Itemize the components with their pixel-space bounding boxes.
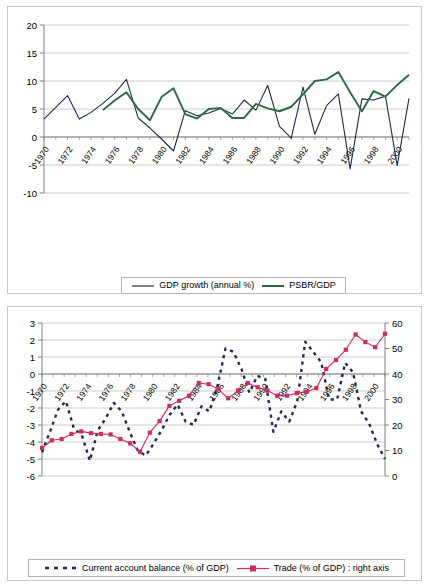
series-marker xyxy=(324,367,328,371)
x-axis-tick-label: 1980 xyxy=(141,381,160,402)
x-axis-tick-label: 1972 xyxy=(52,381,71,402)
x-axis-tick-label-group: 1984 xyxy=(185,381,204,402)
y-axis-tick-label: 0 xyxy=(30,369,35,380)
x-axis-tick-label: 1992 xyxy=(291,144,310,165)
series-marker xyxy=(383,332,387,336)
y-axis-tick-label: -4 xyxy=(27,437,35,448)
x-axis-tick-label: 1986 xyxy=(220,144,239,165)
x-axis-tick-label: 1988 xyxy=(244,144,263,165)
y2-axis-tick-label: 30 xyxy=(392,394,403,405)
legend-line-swatch-navy xyxy=(131,282,155,290)
series-marker xyxy=(177,399,181,403)
series-marker xyxy=(314,386,318,390)
series-marker xyxy=(50,438,54,442)
x-axis-tick-label: 2000 xyxy=(362,381,381,402)
series-marker xyxy=(197,381,201,385)
series-marker xyxy=(344,348,348,352)
series-marker xyxy=(334,358,338,362)
series-marker xyxy=(295,391,299,395)
y2-axis-tick-label: 20 xyxy=(392,420,403,431)
x-axis-tick-label-group: 1974 xyxy=(79,144,98,165)
y-axis-tick-label: 2 xyxy=(30,335,35,346)
y2-axis-tick-label: 0 xyxy=(392,471,397,482)
legend-label-trade: Trade (% of GDP) : right axis xyxy=(274,564,389,573)
series-marker xyxy=(187,394,191,398)
x-axis-tick-label: 2000 xyxy=(385,144,404,165)
y-axis-tick-label: 20 xyxy=(26,20,37,31)
x-axis-tick-label: 1990 xyxy=(267,144,286,165)
y-axis-tick-label: 1 xyxy=(30,352,35,363)
x-axis-tick-label: 1974 xyxy=(74,381,93,402)
chart-bottom-canvas: 3210-1-2-3-4-5-6605040302010019701972197… xyxy=(8,307,421,580)
x-axis-tick-label: 1976 xyxy=(103,144,122,165)
x-axis-tick-label: 1978 xyxy=(119,381,138,402)
series-marker xyxy=(275,394,279,398)
x-axis-tick-label-group: 1994 xyxy=(315,144,334,165)
x-axis-tick-label: 1974 xyxy=(79,144,98,165)
series-line-1 xyxy=(103,72,409,120)
y-axis-tick-label: -5 xyxy=(27,454,35,465)
series-marker xyxy=(167,404,171,408)
x-axis-tick-label-group: 1990 xyxy=(267,144,286,165)
series-marker xyxy=(246,381,250,385)
x-axis-tick-label-group: 1998 xyxy=(362,144,381,165)
chart-top-legend: GDP growth (annual %) PSBR/GDP xyxy=(121,277,346,294)
y-axis-tick-label: 3 xyxy=(30,318,35,329)
x-axis-tick-label-group: 1982 xyxy=(173,144,192,165)
x-axis-tick-label-group: 1976 xyxy=(103,144,122,165)
y-axis-tick-label: -10 xyxy=(23,188,37,199)
series-marker xyxy=(265,388,269,392)
x-axis-tick-label: 1996 xyxy=(318,381,337,402)
series-marker xyxy=(216,387,220,391)
x-axis-tick-label-group: 1986 xyxy=(220,144,239,165)
x-axis-tick-label-group: 1972 xyxy=(52,381,71,402)
series-marker xyxy=(79,429,83,433)
x-axis-tick-label: 1976 xyxy=(96,381,115,402)
screenshot-root: 20151050-5-10197019721974197619781980198… xyxy=(0,0,429,587)
x-axis-tick-label: 1972 xyxy=(56,144,75,165)
legend-line-marker-swatch-pink xyxy=(236,564,270,573)
series-marker xyxy=(226,396,230,400)
legend-item-psbr-gdp: PSBR/GDP xyxy=(261,281,336,290)
series-marker xyxy=(305,390,309,394)
chart-top-canvas: 20151050-5-10197019721974197619781980198… xyxy=(8,7,421,293)
series-line-0 xyxy=(42,342,385,461)
y2-axis-tick-label: 50 xyxy=(392,343,403,354)
y-axis-tick-label: 15 xyxy=(26,48,37,59)
legend-label-psbr-gdp: PSBR/GDP xyxy=(289,281,336,290)
series-marker xyxy=(236,388,240,392)
x-axis-tick-label-group: 1980 xyxy=(150,144,169,165)
y2-axis-tick-label: 10 xyxy=(392,445,403,456)
series-marker xyxy=(207,382,211,386)
y2-axis-tick-label: 40 xyxy=(392,369,403,380)
x-axis-tick-label-group: 1980 xyxy=(141,381,160,402)
series-marker xyxy=(118,437,122,441)
legend-item-trade: Trade (% of GDP) : right axis xyxy=(236,564,389,573)
chart-gdp-growth-psbr: 20151050-5-10197019721974197619781980198… xyxy=(7,6,422,294)
x-axis-tick-label: 1978 xyxy=(126,144,145,165)
series-marker xyxy=(138,450,142,454)
x-axis-tick-label-group: 1976 xyxy=(96,381,115,402)
series-marker xyxy=(99,432,103,436)
y-axis-tick-label: 10 xyxy=(26,76,37,87)
x-axis-tick-label-group: 1992 xyxy=(273,381,292,402)
x-axis-tick-label: 1984 xyxy=(197,144,216,165)
chart-current-account-trade: 3210-1-2-3-4-5-6605040302010019701972197… xyxy=(7,306,422,581)
series-marker xyxy=(158,419,162,423)
x-axis-tick-label-group: 1974 xyxy=(74,381,93,402)
series-marker xyxy=(363,340,367,344)
series-marker xyxy=(354,332,358,336)
legend-item-current-account: Current account balance (% of GDP) xyxy=(44,564,229,573)
series-marker xyxy=(128,441,132,445)
x-axis-tick-label: 1994 xyxy=(315,144,334,165)
x-axis-tick-label: 1992 xyxy=(273,381,292,402)
x-axis-tick-label-group: 1978 xyxy=(119,381,138,402)
y-axis-tick-label: -2 xyxy=(27,403,35,414)
series-marker xyxy=(148,431,152,435)
series-marker xyxy=(40,446,44,450)
legend-dashed-swatch-navy xyxy=(44,564,78,572)
series-marker xyxy=(69,432,73,436)
x-axis-tick-label-group: 1972 xyxy=(56,144,75,165)
chart-bottom-legend: Current account balance (% of GDP) Trade… xyxy=(28,559,405,577)
legend-line-swatch-green xyxy=(261,282,285,290)
